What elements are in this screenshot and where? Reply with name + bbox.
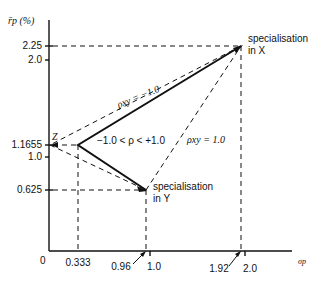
x-tick-label: 2.0 <box>243 263 257 274</box>
y-tick-label: 2.25 <box>23 40 43 51</box>
annotation-rho-plus-one: ρxy = 1.0 <box>186 134 225 145</box>
point-z-label: Z <box>52 131 58 142</box>
x-tick-label: 0.333 <box>65 257 90 268</box>
x-tick-label: 1.0 <box>147 261 161 272</box>
y-tick-label: 1.0 <box>28 151 42 162</box>
origin-label: 0 <box>40 255 46 266</box>
point-y-label: in Y <box>153 193 170 204</box>
series-rho-plus-one <box>146 46 241 190</box>
annotation-intermediate-rho: −1.0 < ρ < +1.0 <box>97 135 165 146</box>
annotation-rho-minus-one: ρxy = −1.0 <box>114 83 160 110</box>
series-rho-minus-one <box>50 46 241 190</box>
risk-return-chart: r̄p (%) 2.25 2.0 1.1655 1.0 0.625 0 0.33… <box>0 0 324 285</box>
point-y-label: specialisation <box>153 181 213 192</box>
y-tick-label: 0.625 <box>17 184 42 195</box>
x-tick-label: 1.92 <box>209 263 229 274</box>
y-axis-label: r̄p (%) <box>8 15 35 27</box>
point-x-label: in X <box>248 45 266 56</box>
guide-lines <box>53 46 241 251</box>
x-ticks <box>150 251 245 256</box>
y-tick-label: 1.1655 <box>11 139 42 150</box>
point-x-label: specialisation <box>248 33 308 44</box>
y-tick-label: 2.0 <box>28 54 42 65</box>
x-tick-label: 0.96 <box>111 261 131 272</box>
x-axis-label: σp <box>298 257 306 266</box>
